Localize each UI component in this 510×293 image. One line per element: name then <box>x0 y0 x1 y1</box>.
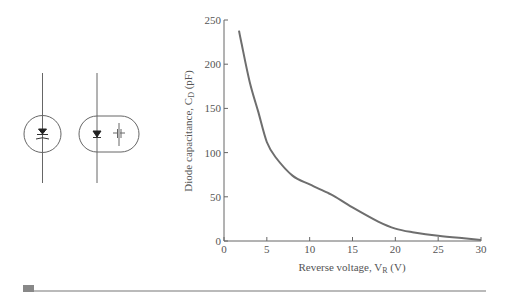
x-tick-label: 30 <box>476 243 488 255</box>
capacitance-chart: 050100150200250051015202530Reverse volta… <box>182 14 487 275</box>
capacitance-curve <box>239 31 481 241</box>
y-tick-label: 100 <box>205 147 222 159</box>
y-axis-label: Diode capacitance, CD (pF) <box>182 70 196 192</box>
x-tick-label: 20 <box>390 243 402 255</box>
x-tick-label: 0 <box>221 243 227 255</box>
y-tick-label: 150 <box>205 102 222 114</box>
x-tick-label: 15 <box>347 243 359 255</box>
varactor-equivalent-capsule-symbol <box>79 73 139 183</box>
footer-rule <box>23 285 486 292</box>
footer-marker <box>23 285 34 292</box>
y-tick-label: 50 <box>210 191 222 203</box>
figure: 050100150200250051015202530Reverse volta… <box>0 0 510 293</box>
x-axis-label: Reverse voltage, VR (V) <box>298 261 406 275</box>
varactor-circle-symbol <box>24 73 61 183</box>
x-tick-label: 5 <box>264 243 270 255</box>
y-tick-label: 250 <box>205 14 222 26</box>
x-tick-label: 10 <box>304 243 316 255</box>
x-tick-label: 25 <box>433 243 445 255</box>
y-tick-label: 200 <box>205 58 222 70</box>
